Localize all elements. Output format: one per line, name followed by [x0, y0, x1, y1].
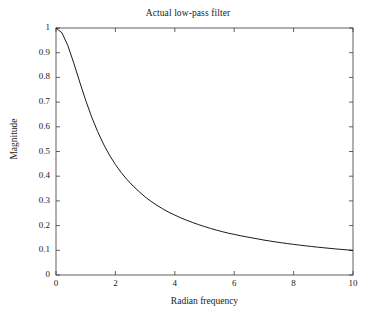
plot-area [0, 0, 376, 318]
y-tick-label: 0.3 [16, 195, 50, 205]
y-tick-label: 0.6 [16, 121, 50, 131]
y-tick-label: 1 [16, 22, 50, 32]
y-tick-label: 0.4 [16, 170, 50, 180]
y-tick-label: 0.1 [16, 244, 50, 254]
y-tick-label: 0.9 [16, 47, 50, 57]
y-tick-label: 0.8 [16, 71, 50, 81]
x-axis-label: Radian frequency [56, 296, 353, 306]
x-tick-label: 0 [41, 278, 71, 288]
x-tick-label: 2 [100, 278, 130, 288]
x-tick-label: 8 [279, 278, 309, 288]
y-tick-label: 0.7 [16, 96, 50, 106]
y-tick-label: 0.2 [16, 220, 50, 230]
x-tick-label: 6 [219, 278, 249, 288]
x-tick-label: 10 [338, 278, 368, 288]
y-axis-label: Magnitude [9, 104, 19, 174]
y-tick-label: 0 [16, 269, 50, 279]
plot-frame [56, 28, 353, 275]
chart-figure: Actual low-pass filter Radian frequency … [0, 0, 376, 318]
y-tick-label: 0.5 [16, 146, 50, 156]
x-tick-label: 4 [160, 278, 190, 288]
